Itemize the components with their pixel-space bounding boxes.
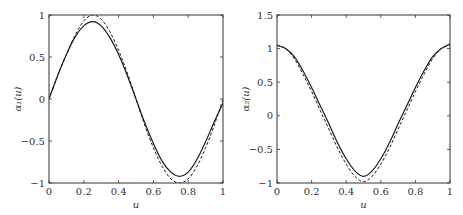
- x-tick-label: 0.6: [373, 186, 389, 197]
- chart-alpha2: 00.20.40.60.81−1−0.500.511.5uα₂(u): [240, 10, 453, 211]
- true-curve-dashed: [277, 45, 450, 181]
- y-axis-label: α₁(u): [12, 86, 23, 111]
- y-tick-label: 0: [267, 110, 273, 121]
- estimate-curve-solid: [277, 44, 450, 176]
- y-tick-label: −1: [258, 178, 273, 189]
- y-tick-label: 1: [267, 43, 273, 54]
- y-tick-label: 1.5: [257, 10, 273, 21]
- series-group: [277, 44, 450, 182]
- y-tick-label: 0.5: [29, 52, 45, 63]
- y-tick-label: 1: [39, 10, 45, 21]
- chart-alpha1: 00.20.40.60.81−1−0.500.51uα₁(u): [12, 10, 226, 211]
- y-tick-label: 0.5: [257, 77, 273, 88]
- series-group: [49, 15, 223, 183]
- y-tick-label: −0.5: [21, 136, 45, 147]
- x-tick-label: 0.8: [180, 186, 196, 197]
- x-tick-label: 0.6: [145, 186, 161, 197]
- x-axis-label: u: [360, 199, 366, 210]
- x-tick-label: 0.8: [407, 186, 423, 197]
- y-tick-label: 0: [39, 94, 45, 105]
- y-tick-label: −0.5: [249, 144, 273, 155]
- plot-frame: [277, 15, 450, 183]
- y-tick-label: −1: [30, 178, 45, 189]
- x-tick-label: 0.4: [111, 186, 127, 197]
- x-tick-label: 0.2: [76, 186, 92, 197]
- x-tick-label: 0: [46, 186, 52, 197]
- x-tick-label: 0.2: [304, 186, 320, 197]
- x-tick-label: 0: [274, 186, 280, 197]
- x-tick-label: 1: [447, 186, 453, 197]
- x-tick-label: 0.4: [338, 186, 354, 197]
- figure: 00.20.40.60.81−1−0.500.51uα₁(u) 00.20.40…: [0, 0, 463, 215]
- y-axis-label: α₂(u): [240, 86, 251, 111]
- x-axis-label: u: [133, 199, 139, 210]
- estimate-curve-solid: [49, 22, 223, 177]
- x-tick-label: 1: [220, 186, 226, 197]
